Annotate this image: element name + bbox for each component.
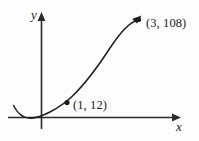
point-marker-b	[136, 17, 141, 22]
y-axis-label: y	[31, 7, 37, 23]
y-axis-arrowhead	[38, 12, 46, 21]
point-label-b: (3, 108)	[146, 16, 186, 31]
point-marker-a	[64, 100, 69, 105]
point-label-a: (1, 12)	[73, 98, 107, 113]
graph-figure: (1, 12) (3, 108) y x	[0, 0, 199, 141]
x-axis-label: x	[176, 119, 182, 135]
